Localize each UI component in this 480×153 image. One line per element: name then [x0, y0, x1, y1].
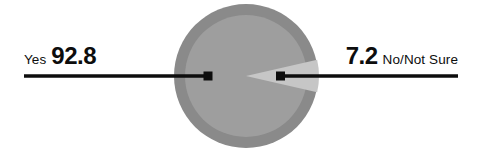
pie-chart-graphic [0, 0, 480, 153]
leader-dot-left [204, 72, 213, 81]
chart-canvas: Yes92.8 7.2No/Not Sure [0, 0, 480, 153]
slice-label-yes-value: 92.8 [51, 42, 96, 69]
slice-label-no-not-sure-category: No/Not Sure [383, 52, 458, 67]
slice-label-no-not-sure: 7.2No/Not Sure [346, 44, 458, 68]
leader-dot-right [276, 72, 285, 81]
slice-label-no-not-sure-value: 7.2 [346, 42, 378, 69]
slice-label-yes-category: Yes [24, 52, 46, 67]
slice-label-yes: Yes92.8 [24, 44, 96, 68]
